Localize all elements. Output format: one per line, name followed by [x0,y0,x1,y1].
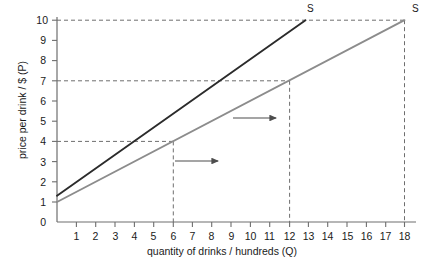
curve-label-supply-shifted: S [412,4,419,14]
y-tick-label: 9 [32,35,46,46]
y-axis-title-text: price per drink / $ (P) [16,61,28,159]
x-tick-label: 7 [182,231,203,242]
shift-annotations [175,118,276,161]
x-tick-label: 3 [105,231,126,242]
y-tick-label: 4 [32,136,46,147]
supply-curve-chart: 10 9 8 7 6 5 4 3 2 1 0 1 2 3 4 5 6 7 8 9… [0,0,439,262]
y-tick-label: 5 [32,116,46,127]
y-tick-label: 1 [32,197,46,208]
y-tick-label: 8 [32,55,46,66]
x-tick-label: 6 [163,231,184,242]
x-tick-label: 10 [240,231,261,242]
y-tick-label: 10 [18,15,48,26]
y-tick-label: 7 [32,76,46,87]
x-axis-ticks [76,222,404,227]
x-tick-label: 4 [124,231,145,242]
curve-label-supply-original: S [307,4,314,14]
x-tick-label: 2 [85,231,106,242]
x-axis-title-text: quantity of drinks / hundreds (Q) [147,245,297,257]
x-axis-title: quantity of drinks / hundreds (Q) [57,245,387,257]
x-tick-label: 9 [221,231,242,242]
x-tick-label: 17 [375,231,396,242]
x-tick-label: 1 [66,231,87,242]
x-tick-label: 8 [201,231,222,242]
x-tick-label: 5 [143,231,164,242]
y-tick-label: 2 [32,177,46,188]
x-tick-label: 18 [394,231,415,242]
reference-lines [57,20,405,222]
supply-curve-shifted [57,20,405,202]
chart-axes [57,17,416,222]
supply-curve-original [57,20,306,196]
x-tick-label: 12 [279,231,300,242]
y-tick-label: 6 [32,96,46,107]
x-tick-label: 13 [298,231,319,242]
y-tick-label: 0 [32,217,46,228]
x-tick-label: 15 [337,231,358,242]
y-axis-ticks [52,20,57,202]
chart-plot-area [0,0,439,262]
x-tick-label: 16 [356,231,377,242]
supply-curves [57,20,405,202]
y-axis-title: price per drink / $ (P) [16,30,28,190]
x-tick-label: 14 [317,231,338,242]
x-tick-label: 11 [259,231,280,242]
y-tick-label: 3 [32,157,46,168]
